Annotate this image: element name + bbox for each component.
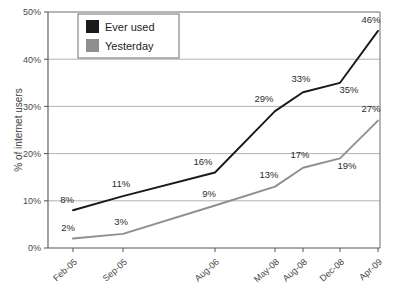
x-axis-tick-label: Dec-08	[318, 257, 346, 284]
legend-label-yesterday: Yesterday	[105, 40, 154, 52]
y-axis-tick-label: 10%	[23, 196, 41, 206]
legend-swatch-ever-used	[86, 20, 99, 33]
data-point-label: 8%	[60, 194, 74, 205]
chart-canvas: 0%10%20%30%40%50% 8%11%16%29%33%35%46%2%…	[0, 0, 395, 293]
data-point-label: 29%	[254, 93, 274, 104]
data-point-label: 9%	[202, 188, 216, 199]
x-axis-labels: Feb-05Sep-05Aug-06May-08Aug-08Dec-08Apr-…	[51, 257, 384, 285]
y-axis: 0%10%20%30%40%50%	[23, 7, 48, 253]
data-point-label: 33%	[291, 73, 311, 84]
x-axis-tick-label: May-08	[252, 257, 281, 285]
x-axis-tick-label: Sep-05	[101, 257, 129, 284]
x-axis-tick-label: Aug-06	[193, 257, 221, 284]
data-point-label: 13%	[259, 169, 279, 180]
legend-label-ever-used: Ever used	[105, 21, 155, 33]
data-point-label: 17%	[290, 149, 310, 160]
y-axis-tick-label: 30%	[23, 102, 41, 112]
data-point-label: 11%	[112, 178, 131, 189]
legend: Ever used Yesterday	[78, 14, 179, 58]
legend-swatch-yesterday	[86, 39, 99, 52]
data-point-label: 27%	[361, 103, 381, 114]
data-point-label: 19%	[337, 160, 357, 171]
y-axis-tick-label: 0%	[28, 243, 41, 253]
x-axis-tick-label: Apr-09	[357, 257, 384, 283]
data-point-label: 35%	[339, 84, 359, 95]
line-chart: 0%10%20%30%40%50% 8%11%16%29%33%35%46%2%…	[0, 0, 395, 293]
y-axis-title: % of internet users	[13, 88, 24, 171]
data-point-label: 46%	[361, 14, 381, 25]
y-axis-tick-label: 40%	[23, 55, 41, 65]
data-point-label: 3%	[114, 216, 128, 227]
x-axis-ticks	[73, 248, 378, 252]
data-point-label: 2%	[61, 222, 75, 233]
x-axis-tick-label: Aug-08	[281, 257, 309, 284]
y-axis-tick-label: 50%	[23, 7, 41, 17]
data-point-label: 16%	[193, 156, 213, 167]
x-axis-tick-label: Feb-05	[51, 257, 79, 284]
y-axis-tick-label: 20%	[23, 149, 41, 159]
